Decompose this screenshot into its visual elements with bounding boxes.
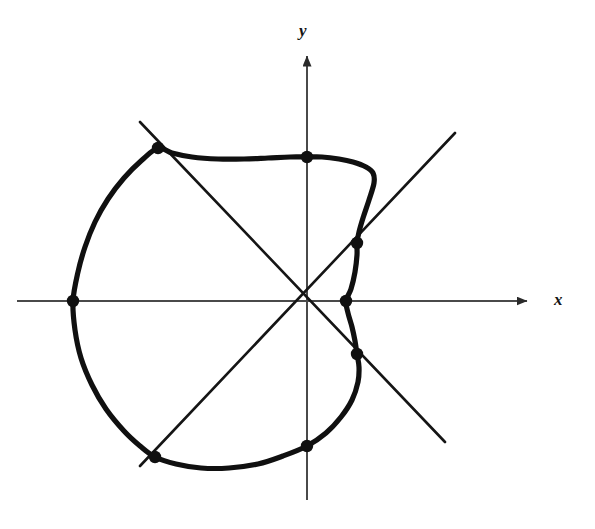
y-axis-label: y [299, 22, 307, 39]
polar-curve-plot [0, 0, 595, 529]
point-diag45-lower-left [149, 451, 161, 463]
point-diag135-upper-left [152, 142, 164, 154]
diagonal-line-135 [140, 122, 445, 442]
point-diag45-upper-right [351, 237, 363, 249]
axes-group [17, 56, 527, 500]
limacon-curve [73, 148, 374, 469]
diagonal-line-45 [140, 133, 455, 466]
figure-container: y x [0, 0, 595, 529]
point-y-axis-top [301, 151, 313, 163]
diagonal-lines-group [140, 122, 455, 466]
point-y-axis-bottom [301, 440, 313, 452]
point-x-axis-left [67, 295, 79, 307]
x-axis-label: x [554, 291, 563, 308]
point-x-axis-right [340, 295, 352, 307]
point-diag135-lower-right [351, 348, 363, 360]
